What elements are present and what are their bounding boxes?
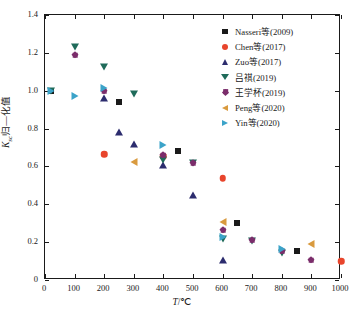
y-axis-tick-label: 1.2 [12,47,38,57]
y-axis-tick [45,204,49,205]
data-point-marker [221,89,228,96]
x-axis-tick-label: 800 [274,283,287,293]
x-axis-tick-label: 100 [67,283,80,293]
data-point [219,256,227,263]
legend-marker-icon [218,44,232,50]
y-axis-tick-right [335,15,339,16]
x-axis-tick [104,274,105,278]
legend-label: Peng等(2020) [235,101,285,114]
x-axis-tick-top [341,15,342,19]
data-point [219,233,226,241]
legend-marker-icon [218,105,232,111]
legend-label: Zuo等(2017) [235,55,281,68]
x-axis-tick-label: 300 [126,283,139,293]
x-axis-tick-label: 400 [156,283,169,293]
data-point [189,192,197,199]
data-point [308,240,315,248]
data-point-marker [222,120,228,126]
x-axis-tick-top [75,15,76,19]
y-axis-tick-right [335,242,339,243]
y-axis-tick-right [335,204,339,205]
data-point-marker [222,29,228,35]
y-axis-tick [45,53,49,54]
data-point-marker [221,74,229,80]
x-axis-tick [134,274,135,278]
legend-label: Yin等(2020) [235,116,280,129]
x-axis-tick-label: 200 [97,283,110,293]
x-axis-tick [282,274,283,278]
legend-label: Nasseri等(2009) [235,25,293,38]
y-axis-tick [45,129,49,130]
legend-item-0[interactable]: Nasseri等(2009) [218,24,338,39]
data-point [338,258,345,265]
x-axis-tick-label: 500 [186,283,199,293]
legend-marker-icon [218,74,232,80]
x-axis-tick [341,274,342,278]
data-point [101,151,108,158]
legend-item-1[interactable]: Chen等(2017) [218,39,338,54]
x-axis-tick-top [252,15,253,19]
y-axis-tick-right [335,166,339,167]
y-axis-tick-label: 0.8 [12,123,38,133]
data-point [47,87,54,95]
legend-item-4[interactable]: 王学杯(2019) [218,85,338,100]
x-axis-tick [252,274,253,278]
data-point [160,141,167,149]
x-axis-tick-label: 900 [304,283,317,293]
y-axis-tick [45,15,49,16]
y-axis-tick-label: 1.0 [12,85,38,95]
y-axis-tick [45,242,49,243]
x-axis-tick [193,274,194,278]
y-axis-tick-label: 0 [12,274,38,284]
legend-marker-icon [218,120,232,126]
data-point [294,248,300,254]
data-point [175,148,181,154]
y-axis-tick-label: 1.4 [12,9,38,19]
chart-figure: Ksc归—化值 T/℃ Nasseri等(2009)Chen等(2017)Zuo… [0,0,364,323]
data-point [219,218,226,226]
legend-item-2[interactable]: Zuo等(2017) [218,54,338,69]
data-point [234,220,240,226]
legend-label: 吕祺(2019) [235,71,276,84]
data-point [71,92,78,100]
x-axis-tick-label: 600 [215,283,228,293]
y-axis-tick-label: 0.2 [12,236,38,246]
x-axis-tick-label: 700 [245,283,258,293]
x-axis-tick-top [311,15,312,19]
data-point [101,84,108,92]
data-point-marker [222,105,228,111]
x-axis-tick [163,274,164,278]
x-axis-tick-top [134,15,135,19]
chart-legend: Nasseri等(2009)Chen等(2017)Zuo等(2017)吕祺(20… [218,24,338,130]
data-point [130,90,138,97]
data-point [71,43,79,50]
legend-item-3[interactable]: 吕祺(2019) [218,70,338,85]
x-axis-tick-top [223,15,224,19]
legend-marker-icon [218,29,232,35]
data-point-marker [222,59,228,65]
data-point [100,63,108,70]
data-point [189,159,197,167]
data-point [100,94,108,101]
y-axis-tick [45,166,49,167]
legend-label: 王学杯(2019) [235,86,285,99]
legend-marker-icon [218,90,232,95]
y-axis-tick-label: 0.6 [12,160,38,170]
y-axis-tick-label: 0.4 [12,198,38,208]
x-axis-tick-top [193,15,194,19]
legend-item-6[interactable]: Yin等(2020) [218,115,338,130]
legend-marker-icon [218,59,232,65]
x-axis-tick [311,274,312,278]
data-point [308,256,316,264]
data-point [130,140,138,147]
y-axis-tick [45,280,49,281]
data-point [115,129,123,136]
legend-label: Chen等(2017) [235,40,286,53]
x-axis-tick [45,274,46,278]
y-axis-tick-right [335,280,339,281]
x-axis-tick-top [104,15,105,19]
x-axis-tick [75,274,76,278]
legend-item-5[interactable]: Peng等(2020) [218,100,338,115]
data-point [130,158,137,166]
x-axis-tick-top [163,15,164,19]
